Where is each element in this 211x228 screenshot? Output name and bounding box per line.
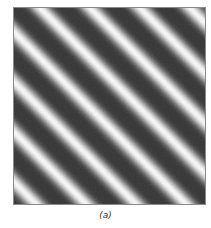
sinusoidal-grating-image [14, 8, 205, 204]
figure-caption: (a) [0, 210, 211, 220]
grating-image-frame [13, 7, 206, 205]
